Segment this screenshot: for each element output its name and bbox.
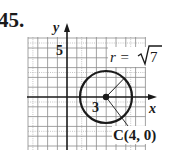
x-tick-label: 3 (92, 100, 99, 115)
radius-label: r = (110, 49, 130, 65)
center-label: C(4, 0) (113, 127, 156, 144)
radius-label-value: 7 (150, 49, 158, 65)
y-axis-label: y (51, 20, 60, 35)
y-axis-arrow-icon (64, 23, 70, 32)
radius-label-prefix: r = (110, 49, 130, 65)
x-axis-arrow-icon (148, 94, 157, 100)
radius-line (106, 79, 124, 98)
center-point (103, 94, 109, 100)
coordinate-plane: y x 5 3 r = 7 C(4, 0) (0, 0, 171, 150)
y-tick-label: 5 (56, 43, 63, 58)
x-axis-label: x (148, 101, 156, 116)
